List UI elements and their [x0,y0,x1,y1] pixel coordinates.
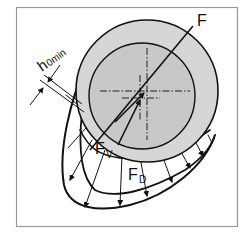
svg-text:F: F [95,140,105,157]
label-f: F [197,12,207,29]
bearing-diagram: F F V F D h 0min [0,0,248,237]
svg-text:F: F [128,166,138,183]
svg-text:D: D [139,174,146,185]
svg-text:V: V [106,149,113,160]
